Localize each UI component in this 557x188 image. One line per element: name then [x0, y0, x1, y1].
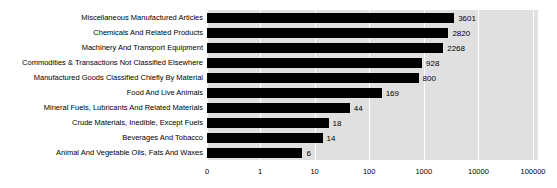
bar[interactable]	[207, 43, 443, 53]
x-tick-label: 1000	[415, 167, 432, 176]
bar[interactable]	[207, 133, 323, 143]
bar-value-label: 18	[329, 118, 342, 127]
bar-value-label: 800	[419, 73, 436, 82]
category-label: Commodities & Transactions Not Classifie…	[0, 58, 203, 68]
x-tick-label: 10000	[468, 167, 489, 176]
bar-row[interactable]: 2268	[207, 43, 538, 53]
bar-value-label: 2268	[443, 43, 465, 52]
x-tick-label: 100000	[520, 167, 545, 176]
x-tick-label: 10	[310, 167, 318, 176]
bar[interactable]	[207, 118, 329, 128]
bar[interactable]	[207, 88, 382, 98]
category-label: Manufactured Goods Classified Chiefly By…	[0, 73, 203, 83]
bar[interactable]	[207, 148, 302, 158]
bar[interactable]	[207, 73, 419, 83]
bar-value-label: 2820	[448, 28, 470, 37]
bar-value-label: 169	[382, 88, 399, 97]
x-axis: 0110100100010000100000	[0, 160, 557, 188]
bar-value-label: 3601	[454, 13, 476, 22]
bar-value-label: 928	[422, 58, 439, 67]
category-label: Mineral Fuels, Lubricants And Related Ma…	[0, 103, 203, 113]
bar-value-label: 14	[323, 133, 336, 142]
x-tick-label: 0	[205, 167, 209, 176]
bar-row[interactable]: 2820	[207, 28, 538, 38]
category-label: Crude Materials, Inedible, Except Fuels	[0, 118, 203, 128]
bar-row[interactable]: 14	[207, 133, 538, 143]
x-tick-label: 100	[363, 167, 376, 176]
bar-row[interactable]: 18	[207, 118, 538, 128]
bar-row[interactable]: 3601	[207, 13, 538, 23]
bar[interactable]	[207, 103, 350, 113]
bar-row[interactable]: 928	[207, 58, 538, 68]
category-label: Miscellaneous Manufactured Articles	[0, 13, 203, 23]
bar-row[interactable]: 44	[207, 103, 538, 113]
category-axis: Miscellaneous Manufactured ArticlesChemi…	[0, 10, 203, 160]
bar[interactable]	[207, 13, 454, 23]
bar[interactable]	[207, 58, 422, 68]
category-label: Machinery And Transport Equipment	[0, 43, 203, 53]
category-label: Chemicals And Related Products	[0, 28, 203, 38]
bar-row[interactable]: 6	[207, 148, 538, 158]
bar-chart: 3601282022689288001694418146 Miscellaneo…	[0, 0, 557, 188]
bar-row[interactable]: 169	[207, 88, 538, 98]
bar[interactable]	[207, 28, 448, 38]
plot-area: 3601282022689288001694418146	[207, 10, 538, 160]
category-label: Beverages And Tobacco	[0, 133, 203, 143]
category-label: Animal And Vegetable Oils, Fats And Waxe…	[0, 148, 203, 158]
bar-value-label: 44	[350, 103, 363, 112]
category-label: Food And Live Animals	[0, 88, 203, 98]
bar-row[interactable]: 800	[207, 73, 538, 83]
bar-value-label: 6	[302, 148, 310, 157]
x-tick-label: 1	[258, 167, 262, 176]
